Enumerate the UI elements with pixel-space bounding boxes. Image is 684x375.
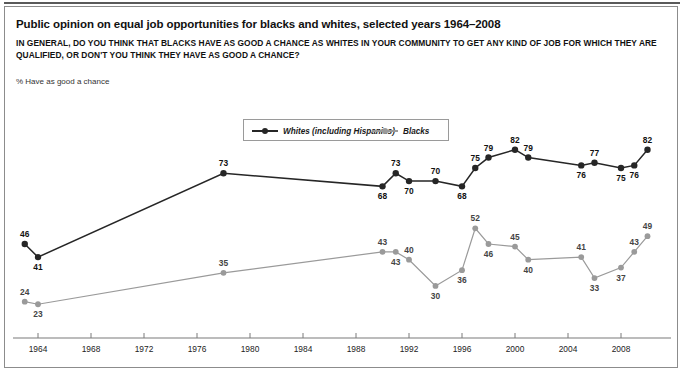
x-tick-label-1976: 1976 bbox=[188, 344, 207, 354]
data-point-blacks-2006 bbox=[592, 275, 598, 281]
data-label-whites-1963: 46 bbox=[20, 229, 29, 239]
data-label-blacks-1997: 52 bbox=[471, 213, 480, 223]
data-label-blacks-2005: 41 bbox=[577, 242, 586, 252]
data-label-whites-2001: 79 bbox=[524, 143, 533, 153]
data-label-blacks-1992: 40 bbox=[404, 245, 413, 255]
data-label-whites-1994: 70 bbox=[431, 166, 440, 176]
data-point-whites-1994 bbox=[432, 178, 438, 184]
data-point-blacks-2005 bbox=[578, 254, 584, 260]
data-point-whites-2001 bbox=[525, 154, 531, 160]
data-point-blacks-2001 bbox=[525, 257, 531, 263]
data-label-whites-2000: 82 bbox=[510, 135, 519, 145]
data-label-whites-2009: 76 bbox=[630, 170, 639, 180]
data-point-whites-1991 bbox=[393, 170, 399, 176]
data-point-whites-1963 bbox=[22, 241, 28, 247]
series-line-whites bbox=[25, 150, 648, 257]
data-point-blacks-1997 bbox=[472, 225, 478, 231]
data-point-blacks-1998 bbox=[486, 241, 492, 247]
data-point-whites-2009 bbox=[631, 162, 637, 168]
x-tick-label-1972: 1972 bbox=[135, 344, 154, 354]
data-label-blacks-1994: 30 bbox=[431, 291, 440, 301]
data-point-blacks-2008 bbox=[618, 265, 624, 271]
x-tick-label-1968: 1968 bbox=[82, 344, 101, 354]
data-label-blacks-1963: 24 bbox=[20, 287, 29, 297]
data-label-blacks-1978: 35 bbox=[219, 258, 228, 268]
data-label-blacks-2010: 49 bbox=[643, 221, 652, 231]
data-label-blacks-2008: 37 bbox=[616, 273, 625, 283]
x-tick-label-2000: 2000 bbox=[506, 344, 525, 354]
data-label-whites-1990: 68 bbox=[378, 191, 387, 201]
data-point-blacks-1996 bbox=[459, 267, 465, 273]
data-label-blacks-2009: 43 bbox=[630, 237, 639, 247]
x-tick-label-2004: 2004 bbox=[559, 344, 578, 354]
data-point-whites-1997 bbox=[472, 165, 478, 171]
data-point-blacks-2009 bbox=[631, 249, 637, 255]
x-tick-label-1992: 1992 bbox=[400, 344, 419, 354]
data-label-blacks-2000: 45 bbox=[510, 232, 519, 242]
data-label-whites-2005: 76 bbox=[577, 170, 586, 180]
data-label-blacks-1964: 23 bbox=[33, 309, 42, 319]
data-point-whites-1996 bbox=[459, 183, 465, 189]
data-label-whites-1964: 41 bbox=[33, 262, 42, 272]
data-point-whites-2005 bbox=[578, 162, 584, 168]
x-tick-label-1964: 1964 bbox=[29, 344, 48, 354]
x-tick-label-1984: 1984 bbox=[294, 344, 313, 354]
data-point-whites-1998 bbox=[485, 154, 491, 160]
data-label-whites-1978: 73 bbox=[219, 158, 228, 168]
data-label-blacks-1998: 46 bbox=[484, 249, 493, 259]
data-point-blacks-1963 bbox=[22, 299, 28, 305]
data-point-blacks-2010 bbox=[645, 233, 651, 239]
data-point-whites-1992 bbox=[406, 178, 412, 184]
data-point-blacks-2000 bbox=[512, 244, 518, 250]
data-point-blacks-1978 bbox=[221, 270, 227, 276]
data-point-whites-2008 bbox=[618, 165, 624, 171]
data-label-blacks-1990: 43 bbox=[378, 237, 387, 247]
x-tick-label-1988: 1988 bbox=[347, 344, 366, 354]
data-point-whites-1978 bbox=[220, 170, 226, 176]
data-label-blacks-1996: 36 bbox=[457, 275, 466, 285]
data-point-blacks-1991 bbox=[393, 249, 399, 255]
data-point-blacks-1994 bbox=[433, 283, 439, 289]
data-label-whites-1998: 79 bbox=[484, 143, 493, 153]
x-tick-label-2008: 2008 bbox=[612, 344, 631, 354]
data-label-blacks-1991: 43 bbox=[391, 257, 400, 267]
data-point-whites-1964 bbox=[35, 254, 41, 260]
data-label-whites-1991: 73 bbox=[391, 158, 400, 168]
chart-plot-area bbox=[5, 7, 679, 369]
data-label-whites-1992: 70 bbox=[404, 186, 413, 196]
data-label-blacks-2001: 40 bbox=[524, 265, 533, 275]
data-label-whites-2006: 77 bbox=[590, 148, 599, 158]
data-label-whites-1997: 75 bbox=[471, 153, 480, 163]
data-point-whites-1990 bbox=[379, 183, 385, 189]
data-label-whites-2008: 75 bbox=[616, 173, 625, 183]
x-tick-label-1980: 1980 bbox=[241, 344, 260, 354]
x-tick-label-1996: 1996 bbox=[453, 344, 472, 354]
top-rule bbox=[4, 2, 680, 4]
chart-frame: Public opinion on equal job opportunitie… bbox=[4, 6, 678, 368]
data-label-whites-2010: 82 bbox=[643, 135, 652, 145]
data-label-whites-1996: 68 bbox=[457, 191, 466, 201]
data-point-whites-2010 bbox=[644, 146, 650, 152]
data-point-whites-2006 bbox=[591, 160, 597, 166]
series-line-blacks bbox=[25, 228, 648, 304]
data-point-blacks-1964 bbox=[35, 301, 41, 307]
data-point-blacks-1992 bbox=[406, 257, 412, 263]
data-label-blacks-2006: 33 bbox=[590, 283, 599, 293]
data-point-whites-2000 bbox=[512, 146, 518, 152]
data-point-blacks-1990 bbox=[380, 249, 386, 255]
